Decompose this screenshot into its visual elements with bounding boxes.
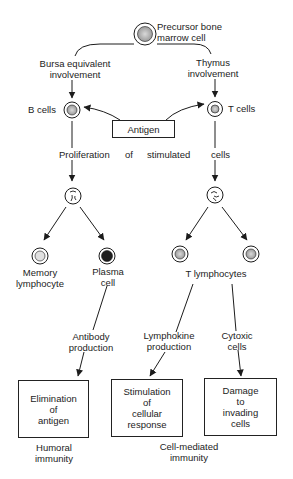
precursor-label: Precursor bone marrow cell: [157, 21, 222, 43]
to-memory-arrow: [44, 207, 66, 240]
proliferation-word: Proliferation: [59, 149, 110, 160]
antigen-to-t-arrow: [166, 104, 204, 120]
b-cells-label: B cells: [28, 104, 56, 115]
stimulation-box: Stimulation of cellular response: [111, 379, 183, 437]
lymphokine-label: Lymphokine production: [144, 330, 195, 352]
lymphokine-arrow: [150, 352, 165, 376]
t-cell-icon: [208, 102, 223, 117]
cell-mediated-label: Cell-mediated immunity: [160, 441, 219, 463]
memory-label: Memory lymphocyte: [16, 267, 64, 289]
memory-cell-icon: [32, 248, 48, 264]
cytoxic-arrow: [238, 350, 241, 376]
plasma-cell-icon: [99, 248, 115, 264]
t-dividing-cell-icon: [207, 187, 223, 203]
stimulated-word: stimulated: [147, 149, 190, 160]
t-lymphocytes-label: T lymphocytes: [185, 268, 246, 279]
antibody-arrow: [78, 352, 84, 376]
antigen-box: Antigen: [112, 120, 175, 138]
b-dividing-cell-icon: [65, 188, 81, 204]
precursor-to-thymus-line: [157, 44, 211, 54]
precursor-to-bursa-line: [75, 44, 134, 56]
to-plasma-arrow: [80, 207, 104, 240]
precursor-cell-icon: [134, 23, 156, 45]
of-word: of: [125, 149, 133, 160]
humoral-label: Humoral immunity: [35, 442, 73, 464]
to-tlymph-right-arrow: [222, 207, 247, 240]
antigen-to-b-arrow: [84, 107, 120, 120]
elimination-box: Elimination of antigen: [18, 380, 89, 438]
cytoxic-label: Cytoxic cells: [221, 330, 252, 352]
damage-box: Damage to invading cells: [204, 378, 277, 436]
t-cells-label: T cells: [228, 103, 255, 114]
thymus-label: Thymus involvement: [188, 57, 239, 79]
t-lymphocyte-left-icon: [172, 246, 188, 262]
antibody-label: Antibody production: [69, 331, 113, 353]
b-cell-icon: [64, 102, 80, 118]
cells-word: cells: [211, 149, 230, 160]
to-tlymph-left-arrow: [186, 207, 208, 240]
bursa-label: Bursa equivalent involvement: [40, 58, 111, 80]
t-lymphocyte-right-icon: [243, 246, 259, 262]
plasma-label: Plasma cell: [92, 266, 124, 288]
